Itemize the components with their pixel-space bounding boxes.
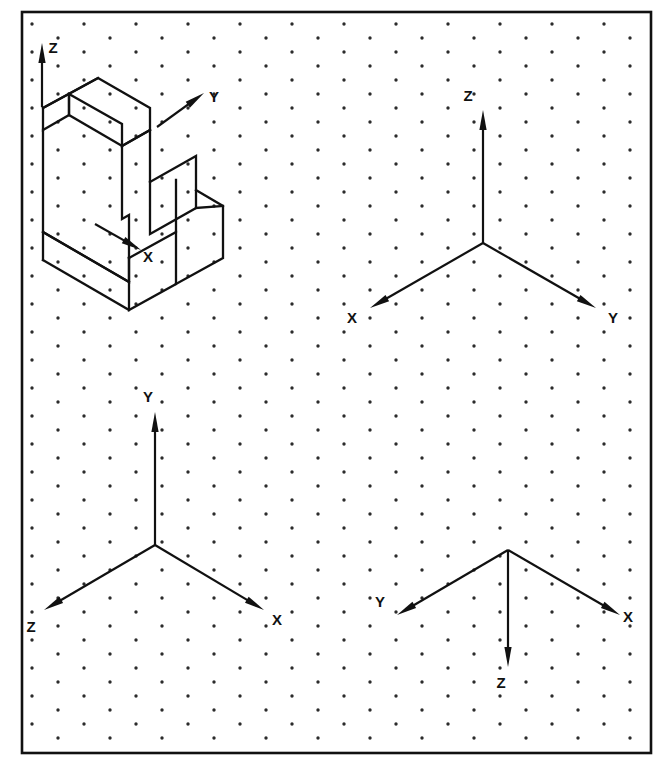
grid-dot [550,190,553,193]
grid-dot [212,624,215,627]
grid-dot [420,148,423,151]
grid-dot [82,78,85,81]
grid-dot [264,148,267,151]
grid-dot [264,428,267,431]
grid-dot [394,582,397,585]
grid-dot [394,666,397,669]
grid-dot [30,106,33,109]
grid-dot [238,414,241,417]
grid-dot [368,204,371,207]
grid-dot [550,358,553,361]
grid-dot [394,190,397,193]
grid-dot [498,386,501,389]
grid-dot [238,274,241,277]
grid-dot [394,246,397,249]
grid-dot [368,512,371,515]
grid-dot [472,92,475,95]
grid-dot [628,484,631,487]
grid-dot [264,512,267,515]
grid-dot [134,22,137,25]
grid-dot [628,64,631,67]
grid-dot [264,120,267,123]
grid-dot [56,288,59,291]
grid-dot [602,218,605,221]
grid-dot [498,666,501,669]
grid-dot [446,190,449,193]
grid-dot [628,316,631,319]
grid-dot [524,512,527,515]
grid-dot [290,274,293,277]
grid-dot [394,526,397,529]
grid-dot [56,456,59,459]
grid-dot [524,596,527,599]
grid-dot [56,232,59,235]
grid-dot [290,554,293,557]
grid-dot [602,722,605,725]
grid-dot [368,36,371,39]
grid-dot [342,246,345,249]
grid-dot [498,134,501,137]
grid-dot [56,568,59,571]
grid-dot [82,22,85,25]
grid-dot [212,652,215,655]
grid-dot [576,484,579,487]
grid-dot [498,302,501,305]
grid-dot [82,50,85,53]
grid-dot [56,176,59,179]
grid-dot [290,330,293,333]
grid-dot [524,344,527,347]
grid-dot [368,176,371,179]
grid-dot [472,120,475,123]
grid-dot [446,330,449,333]
grid-dot [316,624,319,627]
grid-dot [186,22,189,25]
grid-dot [498,78,501,81]
grid-dot [420,400,423,403]
grid-dot [186,162,189,165]
grid-dot [576,36,579,39]
grid-dot [30,386,33,389]
grid-dot [550,134,553,137]
grid-dot [420,736,423,739]
grid-dot [56,148,59,151]
grid-dot [420,652,423,655]
grid-dot [238,666,241,669]
grid-dot [82,162,85,165]
grid-dot [394,302,397,305]
grid-dot [342,162,345,165]
grid-dot [342,694,345,697]
grid-dot [238,330,241,333]
grid-dot [602,526,605,529]
grid-dot [550,106,553,109]
grid-dot [30,554,33,557]
grid-dot [82,722,85,725]
grid-dot [30,638,33,641]
axis-label-x: X [347,309,357,326]
grid-dot [576,680,579,683]
grid-dot [238,162,241,165]
grid-dot [212,176,215,179]
grid-dot [134,694,137,697]
grid-dot [186,106,189,109]
grid-dot [108,260,111,263]
grid-dot [550,638,553,641]
grid-dot [394,22,397,25]
grid-dot [550,302,553,305]
grid-dot [316,736,319,739]
grid-dot [628,652,631,655]
grid-dot [342,358,345,361]
grid-dot [342,414,345,417]
grid-dot [316,316,319,319]
grid-dot [342,610,345,613]
grid-dot [186,722,189,725]
grid-dot [238,722,241,725]
grid-dot [550,470,553,473]
grid-dot [550,330,553,333]
grid-dot [134,666,137,669]
grid-dot [368,456,371,459]
grid-dot [290,582,293,585]
grid-dot [628,736,631,739]
grid-dot [602,106,605,109]
axis-label-z: Z [26,618,35,635]
grid-dot [56,204,59,207]
